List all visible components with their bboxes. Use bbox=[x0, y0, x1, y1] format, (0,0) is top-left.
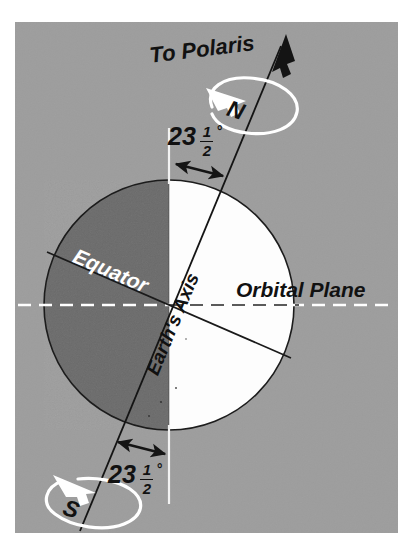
tilt-label-top-whole: 23 bbox=[168, 124, 196, 149]
tilt-label-top-denominator: 2 bbox=[200, 143, 214, 159]
tilt-label-bottom: 23 1 2 ° bbox=[108, 462, 162, 497]
tilt-label-bottom-whole: 23 bbox=[108, 462, 136, 487]
tilt-label-bottom-denominator: 2 bbox=[140, 481, 154, 497]
earth-axial-tilt-diagram: To Polaris N S Equator Earth's Axis Orbi… bbox=[0, 0, 414, 555]
tilt-label-bottom-fraction: 1 2 bbox=[140, 462, 154, 497]
tilt-label-bottom-numerator: 1 bbox=[140, 462, 154, 478]
tilt-label-top-fraction: 1 2 bbox=[200, 124, 214, 159]
tilt-label-top-numerator: 1 bbox=[200, 124, 214, 140]
tilt-label-bottom-degree: ° bbox=[156, 462, 162, 476]
tilt-label-top-degree: ° bbox=[216, 124, 222, 138]
label-orbital-plane: Orbital Plane bbox=[236, 278, 366, 302]
tilt-label-top: 23 1 2 ° bbox=[168, 124, 222, 159]
